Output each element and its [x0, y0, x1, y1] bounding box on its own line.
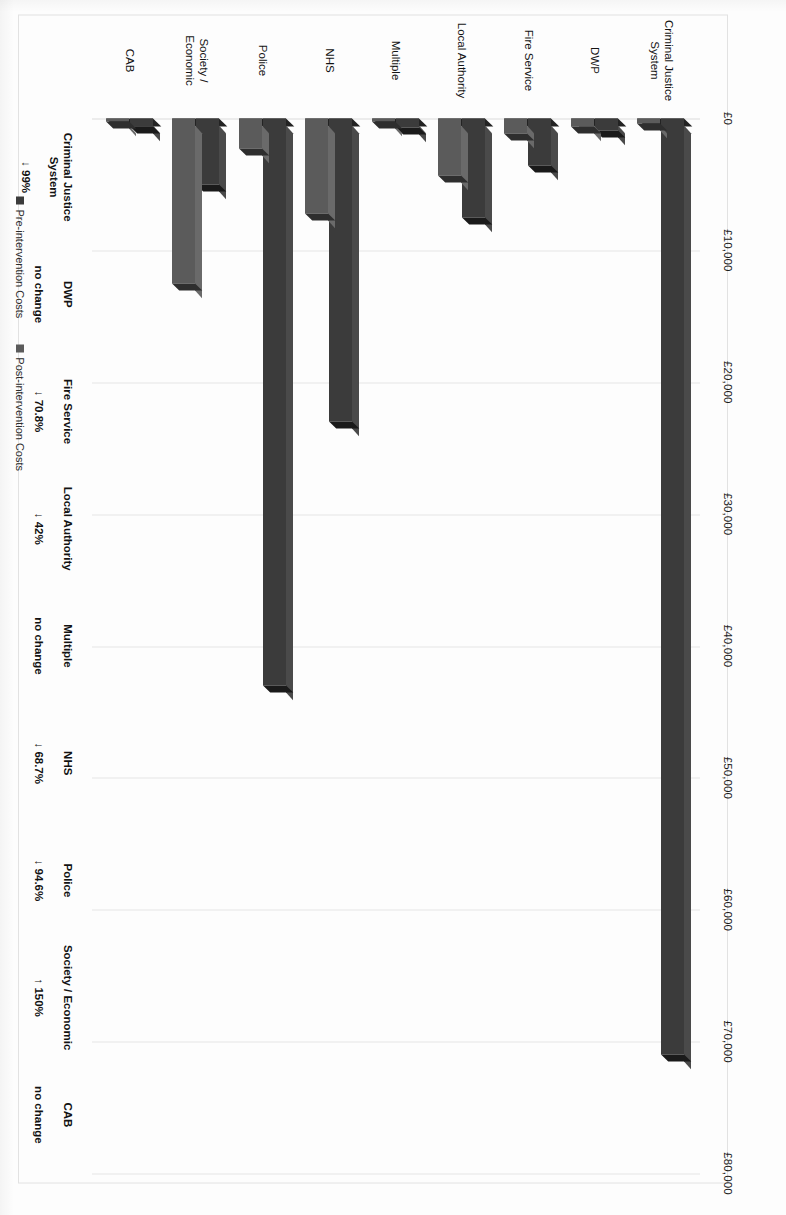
x-tick-label: £60,000	[722, 888, 734, 930]
annotation-change-value: no change	[33, 586, 45, 706]
annotation-change-value: ↓ 70.8%	[33, 351, 45, 471]
x-tick-label: £30,000	[722, 492, 734, 534]
bar-front-face	[263, 118, 286, 685]
x-tick-label: £10,000	[722, 229, 734, 271]
legend-item[interactable]: Post-intervention Costs	[14, 344, 26, 471]
annotation-category-name: NHS	[60, 703, 74, 823]
legend-label: Pre-intervention Costs	[14, 209, 26, 318]
annotation-cell: DWPno change	[33, 234, 74, 354]
legend-swatch-icon	[16, 196, 24, 204]
annotation-change-value: no change	[33, 234, 45, 354]
category-label: Multiple	[388, 14, 402, 106]
annotation-category-name: Local Authority	[60, 468, 74, 588]
x-tick-label: £40,000	[722, 624, 734, 666]
bar-top-face	[262, 125, 269, 163]
bar-top-face	[286, 125, 293, 700]
annotation-change-value: no change	[33, 1054, 45, 1174]
rotated-chart-frame: £0£10,000£20,000£30,000£40,000£50,000£60…	[0, 0, 786, 1215]
x-tick-label: £70,000	[722, 1020, 734, 1062]
bar-pre-intervention[interactable]	[595, 118, 618, 130]
category-row: Local Authority	[428, 118, 494, 1173]
annotation-cell: Local Authority↓ 42%	[33, 468, 74, 588]
bar-post-intervention[interactable]	[305, 118, 328, 213]
bar-post-intervention[interactable]	[106, 118, 129, 121]
legend-swatch-icon	[16, 344, 24, 352]
bar-post-intervention[interactable]	[438, 118, 461, 175]
category-row: Society / Economic	[162, 118, 228, 1173]
bar-pre-intervention[interactable]	[263, 118, 286, 685]
legend-item[interactable]: Pre-intervention Costs	[14, 196, 26, 318]
bar-front-face	[661, 118, 684, 1054]
bar-post-intervention[interactable]	[172, 118, 195, 283]
annotation-category-name: Multiple	[60, 586, 74, 706]
annotation-cell: Multipleno change	[33, 586, 74, 706]
bar-top-face	[684, 125, 691, 1069]
scanned-page-surface: £0£10,000£20,000£30,000£40,000£50,000£60…	[0, 0, 786, 1215]
annotation-category-name: Police	[60, 820, 74, 940]
bar-post-intervention[interactable]	[239, 118, 262, 148]
bar-front-face	[106, 118, 129, 121]
annotation-cell: Society / Economic↑ 150%	[33, 937, 74, 1057]
bar-front-face	[438, 118, 461, 175]
bar-front-face	[571, 118, 594, 126]
annotation-change-value: ↓ 68.7%	[33, 703, 45, 823]
category-row: CAB	[96, 118, 162, 1173]
chart-legend: Pre-intervention CostsPost-intervention …	[14, 196, 26, 471]
annotation-category-name: DWP	[60, 234, 74, 354]
chart-canvas: £0£10,000£20,000£30,000£40,000£50,000£60…	[0, 0, 786, 1215]
category-label: Society / Economic	[182, 14, 209, 106]
bar-top-face	[195, 125, 202, 298]
plot-area: £0£10,000£20,000£30,000£40,000£50,000£60…	[96, 118, 694, 1173]
annotation-cell: CABno change	[33, 1054, 74, 1174]
annotation-cell: NHS↓ 68.7%	[33, 703, 74, 823]
bar-top-face	[352, 125, 359, 436]
annotation-cell: Police↓ 94.6%	[33, 820, 74, 940]
bar-post-intervention[interactable]	[504, 118, 527, 133]
bar-front-face	[637, 118, 660, 123]
bar-pre-intervention[interactable]	[661, 118, 684, 1054]
category-label: Fire Service	[521, 14, 535, 106]
category-label: DWP	[588, 14, 602, 106]
bar-post-intervention[interactable]	[372, 118, 395, 121]
category-label: Local Authority	[455, 14, 469, 106]
annotation-cell: Criminal Justice System↓ 99%	[20, 117, 74, 237]
legend-label: Post-intervention Costs	[14, 357, 26, 471]
bar-top-face	[328, 125, 335, 228]
annotation-change-value: ↓ 94.6%	[33, 820, 45, 940]
bar-top-face	[485, 125, 492, 232]
bar-front-face	[239, 118, 262, 148]
category-label: NHS	[322, 14, 336, 106]
category-label: Criminal Justice System	[647, 14, 674, 106]
category-label: Police	[255, 14, 269, 106]
bar-post-intervention[interactable]	[637, 118, 660, 123]
annotation-category-name: Fire Service	[60, 351, 74, 471]
category-row: Criminal Justice System	[628, 118, 694, 1173]
bar-front-face	[504, 118, 527, 133]
annotation-category-name: Society / Economic	[60, 937, 74, 1057]
x-tick-label: £20,000	[722, 361, 734, 403]
x-tick-label: £0	[722, 112, 734, 125]
category-row: Fire Service	[495, 118, 561, 1173]
annotation-change-value: ↑ 150%	[33, 937, 45, 1057]
annotation-cell: Fire Service↓ 70.8%	[33, 351, 74, 471]
bar-front-face	[172, 118, 195, 283]
bar-front-face	[595, 118, 618, 130]
x-tick-label: £80,000	[722, 1152, 734, 1194]
category-row: NHS	[295, 118, 361, 1173]
category-label: CAB	[122, 14, 136, 106]
bar-front-face	[372, 118, 395, 121]
annotation-category-name: CAB	[60, 1054, 74, 1174]
annotation-category-name: Criminal Justice System	[47, 117, 74, 237]
bar-post-intervention[interactable]	[571, 118, 594, 126]
category-row: Multiple	[362, 118, 428, 1173]
x-tick-label: £50,000	[722, 756, 734, 798]
category-row: Police	[229, 118, 295, 1173]
annotation-change-value: ↓ 42%	[33, 468, 45, 588]
bar-front-face	[305, 118, 328, 213]
category-row: DWP	[561, 118, 627, 1173]
